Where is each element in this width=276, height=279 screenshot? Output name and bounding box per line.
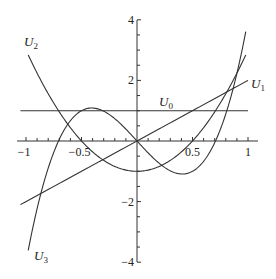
x-tick-label: −1 (18, 145, 31, 159)
chart-plot: −1−0.50.51 −4−224 U2 U0 U1 U3 (0, 0, 276, 279)
label-u2: U2 (24, 34, 38, 51)
y-tick-label: 4 (128, 13, 134, 27)
x-tick-label: 1 (245, 145, 251, 159)
label-u1: U1 (251, 76, 265, 93)
y-tick-label: 2 (128, 73, 134, 87)
curve-u1 (20, 80, 248, 204)
y-tick-label: −4 (121, 255, 134, 269)
label-u0: U0 (159, 94, 173, 111)
label-u3: U3 (34, 248, 48, 265)
y-tick-label: −2 (121, 195, 134, 209)
